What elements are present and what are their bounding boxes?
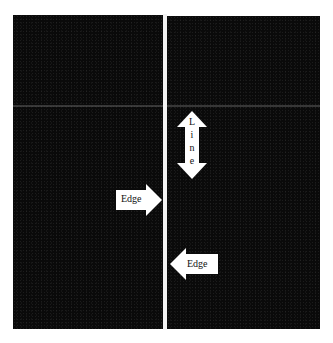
line-label: L i n e — [187, 115, 197, 167]
edge-label-right: Edge — [121, 193, 142, 204]
line-label-char: i — [191, 128, 194, 141]
line-label-char: L — [189, 115, 195, 128]
image-panel-left — [13, 15, 163, 329]
white-vertical-line — [163, 14, 167, 330]
line-label-char: n — [190, 141, 195, 154]
line-label-char: e — [190, 154, 194, 167]
edge-label-left: Edge — [187, 258, 208, 269]
